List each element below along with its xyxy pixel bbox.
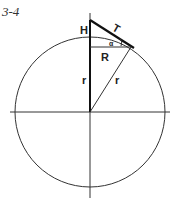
label-r-vertical: r <box>82 74 87 86</box>
label-r-slant: r <box>115 74 120 86</box>
slant-radius-line <box>90 47 131 112</box>
label-alpha: α <box>109 40 114 47</box>
label-r-horizontal: R <box>101 51 109 63</box>
label-h: H <box>80 24 88 36</box>
earth-curvature-diagram: 3-4 H T α R r r _ _ <box>0 0 173 218</box>
figure-number: 3-4 <box>1 4 20 19</box>
bottom-caption-partial: _ _ <box>65 209 125 218</box>
